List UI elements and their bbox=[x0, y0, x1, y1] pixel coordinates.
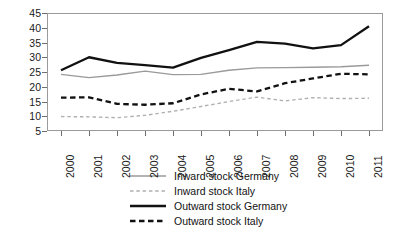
legend-item-label: Outward stock Germany bbox=[174, 200, 287, 212]
chart-figure: 51015202530354045 Inward stock GermanyIn… bbox=[0, 0, 402, 232]
series-line-2 bbox=[61, 26, 369, 70]
legend-item[interactable]: Outward stock Italy bbox=[129, 213, 359, 228]
y-tick-mark bbox=[42, 72, 47, 73]
x-tick-mark bbox=[285, 131, 286, 136]
x-tick-mark bbox=[201, 131, 202, 136]
x-tick-label: 2000 bbox=[65, 155, 76, 178]
legend-item[interactable]: Outward stock Germany bbox=[129, 198, 359, 213]
y-tick-mark bbox=[42, 43, 47, 44]
y-tick-mark bbox=[42, 116, 47, 117]
x-tick-mark bbox=[61, 131, 62, 136]
legend-item-label: Inward stock Italy bbox=[174, 185, 255, 197]
y-tick-mark bbox=[42, 131, 47, 132]
x-tick-label: 2009 bbox=[317, 155, 328, 178]
x-tick-mark bbox=[341, 131, 342, 136]
legend-line-swatch-icon bbox=[129, 215, 167, 227]
y-tick-mark bbox=[42, 57, 47, 58]
x-tick-mark bbox=[313, 131, 314, 136]
x-tick-label: 2004 bbox=[177, 155, 188, 178]
y-tick-mark bbox=[42, 13, 47, 14]
series-line-0 bbox=[61, 65, 369, 77]
x-tick-mark bbox=[257, 131, 258, 136]
x-tick-mark bbox=[117, 131, 118, 136]
x-tick-mark bbox=[89, 131, 90, 136]
y-tick-mark bbox=[42, 87, 47, 88]
legend-line-swatch-icon bbox=[129, 185, 167, 197]
x-tick-label: 2011 bbox=[373, 155, 384, 178]
y-tick-mark bbox=[42, 102, 47, 103]
x-tick-label: 2006 bbox=[233, 155, 244, 178]
x-tick-mark bbox=[369, 131, 370, 136]
series-line-3 bbox=[61, 74, 369, 105]
x-tick-label: 2003 bbox=[149, 155, 160, 178]
y-tick-mark bbox=[42, 28, 47, 29]
x-tick-label: 2005 bbox=[205, 155, 216, 178]
legend-item-label: Outward stock Italy bbox=[174, 215, 263, 227]
x-tick-mark bbox=[145, 131, 146, 136]
x-tick-mark bbox=[229, 131, 230, 136]
x-tick-label: 2010 bbox=[345, 155, 356, 178]
x-tick-label: 2008 bbox=[289, 155, 300, 178]
x-tick-label: 2001 bbox=[93, 155, 104, 178]
legend-item[interactable]: Inward stock Italy bbox=[129, 183, 359, 198]
legend-line-swatch-icon bbox=[129, 200, 167, 212]
series-line-1 bbox=[61, 97, 369, 118]
x-tick-label: 2007 bbox=[261, 155, 272, 178]
x-tick-mark bbox=[173, 131, 174, 136]
x-tick-label: 2002 bbox=[121, 155, 132, 178]
